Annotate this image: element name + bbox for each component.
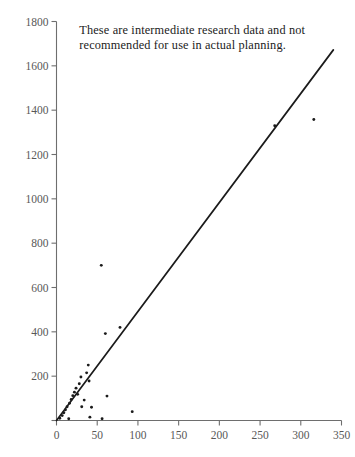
data-point <box>79 376 82 379</box>
regression-line <box>57 50 334 421</box>
data-point <box>76 393 79 396</box>
data-point <box>78 382 81 385</box>
data-point <box>71 394 74 397</box>
plot-canvas: 20040060080010001200140016001800 0501001… <box>0 0 355 457</box>
x-tick-label: 150 <box>170 429 188 441</box>
x-tick-label: 100 <box>129 429 147 441</box>
data-points <box>58 118 315 420</box>
x-tick-label: 0 <box>54 429 60 441</box>
data-point <box>66 405 69 408</box>
data-point <box>101 417 104 420</box>
regression-line-path <box>57 50 334 421</box>
y-tick-label: 200 <box>31 370 49 382</box>
data-point <box>80 405 83 408</box>
y-tick-label: 1800 <box>26 16 49 28</box>
y-tick-label: 600 <box>31 282 49 294</box>
data-point <box>273 124 276 127</box>
x-tick-label: 300 <box>292 429 310 441</box>
y-tick-label: 800 <box>31 237 49 249</box>
data-point <box>83 399 86 402</box>
data-point <box>88 380 91 383</box>
data-point <box>73 391 76 394</box>
x-tick-label: 350 <box>333 429 351 441</box>
y-tick-label: 1400 <box>26 104 49 116</box>
x-tick-label: 50 <box>91 429 103 441</box>
y-tick-label: 1200 <box>26 149 49 161</box>
x-tick-label: 200 <box>211 429 229 441</box>
y-axis: 20040060080010001200140016001800 <box>26 16 57 421</box>
annotation-line: recommended for use in actual planning. <box>79 38 286 52</box>
y-tick-label: 400 <box>31 326 49 338</box>
data-point <box>67 417 70 420</box>
data-point <box>62 411 65 414</box>
data-point <box>70 398 73 401</box>
data-point <box>312 118 315 121</box>
y-tick-label: 1600 <box>26 60 49 72</box>
scatter-plot-figure: 20040060080010001200140016001800 0501001… <box>0 0 355 457</box>
data-point <box>90 406 93 409</box>
data-point <box>100 264 103 267</box>
data-point <box>64 408 67 411</box>
data-point <box>61 414 64 417</box>
data-point <box>85 371 88 374</box>
annotation-disclaimer: These are intermediate research data and… <box>79 23 305 52</box>
y-tick-label: 1000 <box>26 193 49 205</box>
x-axis: 050100150200250300350 <box>54 421 351 441</box>
data-point <box>68 402 71 405</box>
data-point <box>75 387 78 390</box>
data-point <box>104 332 107 335</box>
data-point <box>87 364 90 367</box>
annotation-line: These are intermediate research data and… <box>79 23 305 37</box>
data-point <box>88 416 91 419</box>
data-point <box>58 417 61 420</box>
data-point <box>106 395 109 398</box>
x-tick-label: 250 <box>251 429 269 441</box>
data-point <box>131 410 134 413</box>
data-point <box>119 326 122 329</box>
